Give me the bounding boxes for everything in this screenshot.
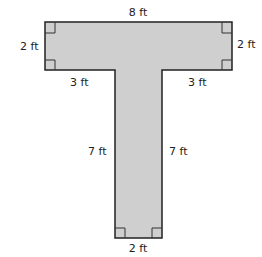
label-stem-left: 7 ft	[88, 145, 107, 158]
label-right-side: 2 ft	[237, 38, 256, 51]
label-top: 8 ft	[129, 6, 148, 19]
label-left-side: 2 ft	[20, 40, 39, 53]
label-stem-right: 7 ft	[169, 145, 188, 158]
label-stem-bottom: 2 ft	[129, 242, 148, 255]
t-shape-outline	[45, 22, 232, 238]
label-bottom-left-ledge: 3 ft	[70, 76, 89, 89]
t-shape-diagram: 8 ft 2 ft 2 ft 3 ft 3 ft 7 ft 7 ft 2 ft	[0, 0, 262, 257]
label-bottom-right-ledge: 3 ft	[188, 76, 207, 89]
